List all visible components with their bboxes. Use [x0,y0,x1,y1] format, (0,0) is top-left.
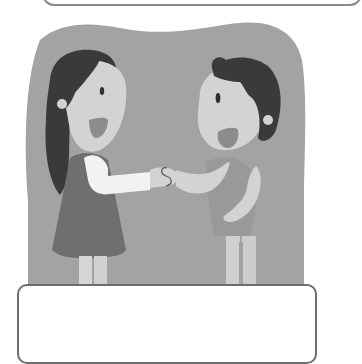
boy-leg-gap [239,242,243,286]
boy-left-leg [226,236,240,286]
girl-ear [57,99,67,109]
boy-eye [216,93,221,103]
girl-eye [100,87,104,95]
girl-left-leg [79,256,92,286]
girl-right-leg [94,256,107,286]
caption-box [17,284,317,364]
boy-ear [263,115,273,125]
boy-right-leg [242,236,256,286]
